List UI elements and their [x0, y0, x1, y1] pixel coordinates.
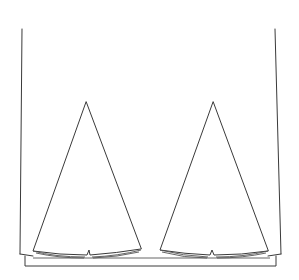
diagram-canvas	[0, 0, 299, 280]
container-floor-left	[20, 254, 33, 256]
cone-right	[160, 102, 268, 258]
container-left-wall	[20, 29, 22, 254]
container-right-wall	[275, 29, 281, 254]
cone-right-body	[160, 102, 268, 255]
cone-left	[33, 102, 141, 258]
cone-left-body	[33, 102, 141, 255]
container-floor-right	[268, 254, 281, 256]
